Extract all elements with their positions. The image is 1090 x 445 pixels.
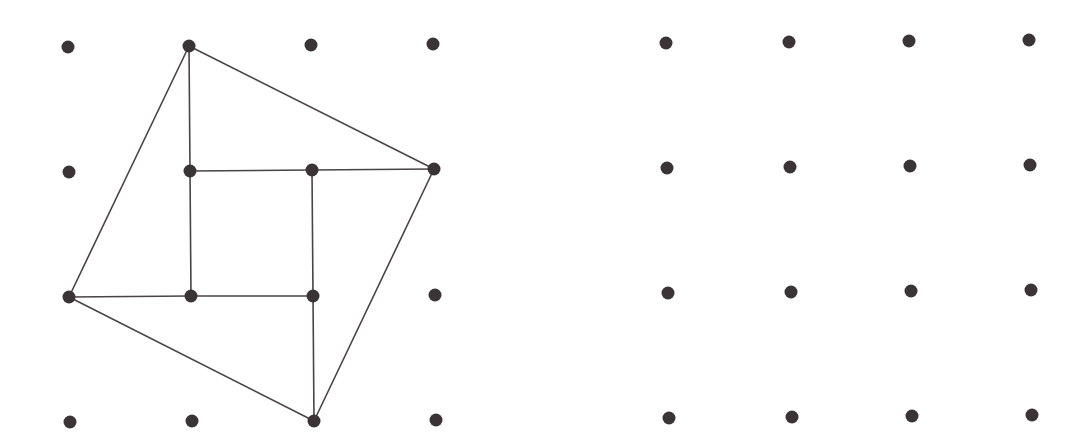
grid-dot-r0-c1 (783, 36, 796, 49)
inner-vertical-right-lower-line (313, 296, 314, 421)
left-geoboard (62, 38, 443, 429)
inner-vertical-left-line (190, 171, 191, 296)
inner-horizontal-top-extension-line (312, 169, 434, 170)
grid-dot-r2-c3 (1025, 284, 1038, 297)
inner-vertical-left-upper-line (189, 46, 190, 171)
grid-dot-r1-c3 (1024, 159, 1037, 172)
grid-dot-r1-c2 (904, 160, 917, 173)
grid-dot-r0-c0 (660, 37, 673, 50)
grid-dot-r3-c0 (663, 412, 676, 425)
grid-dot-r0-c1 (183, 40, 196, 53)
grid-dot-r3-c2 (308, 415, 321, 428)
grid-dot-r0-c2 (305, 39, 318, 52)
grid-dot-r1-c3 (428, 163, 441, 176)
outer-square-bottom-left-line (69, 297, 314, 421)
grid-dot-r2-c1 (185, 290, 198, 303)
grid-dot-r3-c3 (1026, 409, 1039, 422)
line-segments (69, 46, 434, 421)
grid-dot-r0-c2 (903, 35, 916, 48)
grid-dot-r0-c0 (62, 41, 75, 54)
grid-dot-r2-c1 (785, 286, 798, 299)
grid-dot-r1-c0 (63, 166, 76, 179)
grid-dot-r3-c1 (186, 415, 199, 428)
grid-dot-r2-c3 (429, 289, 442, 302)
grid-dot-r1-c1 (184, 165, 197, 178)
outer-square-left-top-line (69, 46, 189, 297)
grid-dot-r2-c0 (63, 291, 76, 304)
grid-dot-r1-c2 (306, 164, 319, 177)
grid-dot-r3-c2 (906, 410, 919, 423)
outer-square-right-bottom-line (314, 169, 434, 421)
inner-horizontal-top-line (190, 170, 312, 171)
grid-dot-r2-c0 (662, 287, 675, 300)
inner-horizontal-bottom-extension-line (69, 296, 191, 297)
grid-dot-r3-c3 (430, 414, 443, 427)
inner-vertical-right-line (312, 170, 313, 296)
outer-square-top-right-line (189, 46, 434, 169)
grid-dot-r3-c0 (64, 416, 77, 429)
grid-dot-r2-c2 (905, 285, 918, 298)
grid-dot-r3-c1 (786, 411, 799, 424)
right-geoboard (660, 34, 1039, 425)
grid-dot-r1-c0 (661, 162, 674, 175)
grid-dot-r2-c2 (307, 290, 320, 303)
geoboard-diagram (0, 0, 1090, 445)
grid-dot-r0-c3 (427, 38, 440, 51)
grid-dot-r0-c3 (1023, 34, 1036, 47)
grid-dot-r1-c1 (784, 161, 797, 174)
grid-dots (62, 34, 1039, 429)
